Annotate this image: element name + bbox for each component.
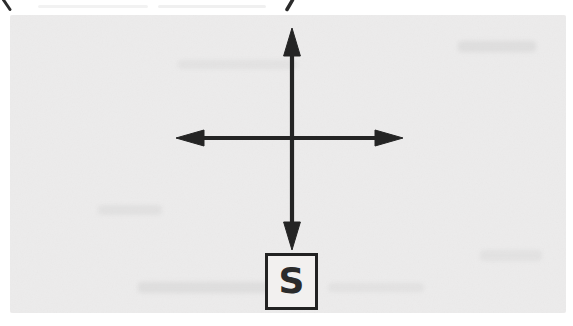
cropped-text-line [0, 0, 573, 14]
bleed-through-smudge [458, 41, 536, 52]
cropped-glyph-smear [158, 5, 266, 8]
bleed-through-smudge [480, 250, 542, 261]
bleed-through-smudge [328, 283, 424, 292]
source-box-label: S [279, 263, 305, 299]
source-box: S [265, 253, 318, 310]
bleed-through-smudge [98, 205, 162, 215]
cropped-glyph-smear [38, 5, 148, 8]
bleed-through-smudge [178, 60, 298, 69]
scanned-figure-page: S [0, 0, 573, 326]
cropped-glyph-fragment-right [287, 0, 293, 10]
cropped-glyph-fragment-left [4, 0, 11, 10]
